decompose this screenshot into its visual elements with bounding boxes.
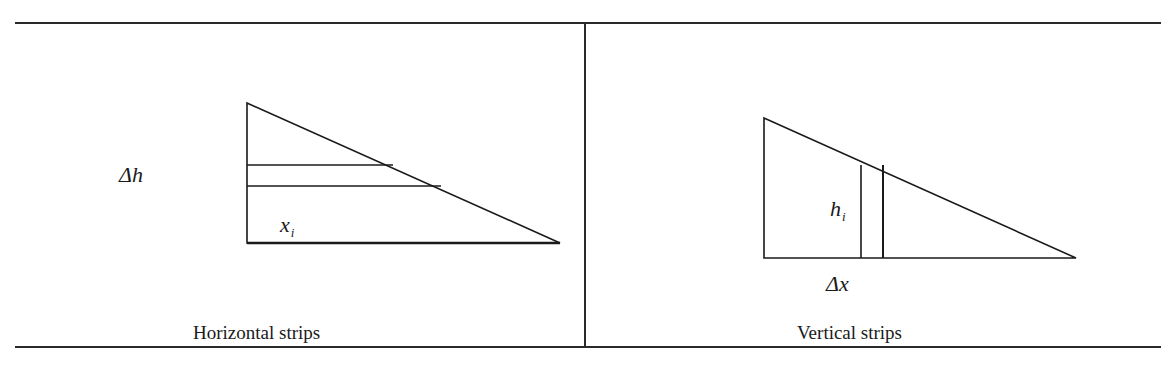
delta-x-label: Δx — [826, 271, 849, 297]
delta-h-label: Δh — [119, 162, 143, 188]
h-i-base: h — [830, 196, 841, 221]
vertical-panel-figure — [764, 118, 1076, 258]
geometry-layer — [0, 0, 1176, 374]
x-i-base: x — [280, 212, 290, 237]
caption-horizontal-strips: Horizontal strips — [193, 322, 320, 344]
x-i-subscript: i — [291, 225, 295, 240]
right-triangle-right — [764, 118, 1076, 258]
caption-vertical-strips: Vertical strips — [797, 322, 902, 344]
x-i-label: xi — [280, 212, 294, 241]
h-i-subscript: i — [842, 209, 846, 224]
h-i-label: hi — [830, 196, 846, 225]
